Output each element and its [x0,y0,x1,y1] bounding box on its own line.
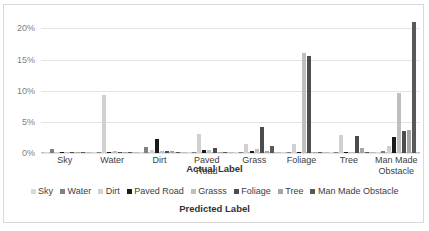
legend-item[interactable]: Paved Road [127,186,184,196]
bar[interactable] [92,152,96,153]
bar[interactable] [113,151,117,153]
bar[interactable] [244,144,248,153]
bar[interactable] [239,152,243,153]
bar[interactable] [334,152,338,153]
bar[interactable] [107,152,111,153]
bar-group [88,16,135,153]
legend-item[interactable]: Dirt [98,186,120,196]
legend-swatch-icon [191,189,196,194]
bar[interactable] [139,152,143,153]
bar-group [183,16,230,153]
bar[interactable] [55,152,59,153]
legend-label: Foliage [241,186,271,196]
bar[interactable] [234,152,238,153]
legend-item[interactable]: Foliage [234,186,271,196]
bar[interactable] [260,127,264,153]
bar[interactable] [329,152,333,153]
bar[interactable] [387,146,391,153]
bar-group [41,16,88,153]
bar[interactable] [45,152,49,153]
bar[interactable] [223,152,227,153]
bar[interactable] [350,152,354,153]
bar-group [373,16,420,153]
bar[interactable] [381,151,385,153]
legend-swatch-icon [98,189,103,194]
bar[interactable] [344,152,348,153]
bar[interactable] [250,151,254,153]
legend-item[interactable]: Grasss [191,186,227,196]
y-axis-tick-label: 0% [22,149,35,158]
bar[interactable] [360,148,364,153]
legend-item[interactable]: Man Made Obstacle [310,186,398,196]
bar[interactable] [339,135,343,153]
secondary-axis-title: Actual Label [4,163,425,174]
legend-swatch-icon [310,189,315,194]
bar[interactable] [255,149,259,153]
y-axis-tick-label: 5% [22,117,35,126]
bar[interactable] [123,152,127,153]
bar[interactable] [187,152,191,153]
bar[interactable] [97,152,101,153]
bar[interactable] [287,152,291,153]
bar-group [136,16,183,153]
chart-container: 0%5%10%15%20% SkyWaterDirtPaved RoadGras… [3,4,424,223]
bar[interactable] [70,152,74,153]
legend-label: Dirt [106,186,120,196]
legend-item[interactable]: Water [60,186,91,196]
bar[interactable] [218,152,222,153]
plot-area [41,16,420,153]
bar[interactable] [202,150,206,153]
y-axis: 0%5%10%15%20% [4,16,38,153]
bar[interactable] [355,136,359,153]
legend-swatch-icon [31,189,36,194]
bar[interactable] [318,152,322,153]
bar[interactable] [213,148,217,153]
bar[interactable] [365,152,369,153]
bar[interactable] [265,151,269,153]
legend-label: Sky [38,186,53,196]
bar-group [325,16,372,153]
legend-label: Tree [285,186,303,196]
bar[interactable] [407,130,411,153]
bar[interactable] [402,131,406,153]
y-axis-tick-label: 15% [17,55,35,64]
bar[interactable] [102,95,106,153]
bar[interactable] [76,152,80,153]
bar[interactable] [376,152,380,153]
bar[interactable] [192,152,196,153]
legend-label: Man Made Obstacle [318,186,399,196]
bar[interactable] [150,150,154,153]
bar[interactable] [170,151,174,153]
bar[interactable] [81,152,85,153]
bar[interactable] [302,53,306,153]
bar[interactable] [397,93,401,153]
bar[interactable] [118,152,122,153]
bar[interactable] [270,146,274,153]
legend-item[interactable]: Sky [31,186,54,196]
bar[interactable] [128,152,132,153]
legend-item[interactable]: Tree [278,186,304,196]
x-axis-title: Predicted Label [4,203,425,214]
bar[interactable] [313,152,317,153]
bar[interactable] [197,134,201,153]
bar[interactable] [292,144,296,153]
legend-swatch-icon [278,189,283,194]
bar[interactable] [176,152,180,153]
bar[interactable] [207,150,211,153]
bar[interactable] [297,152,301,153]
bar[interactable] [307,56,311,153]
bar[interactable] [160,151,164,153]
bar[interactable] [412,22,416,153]
bar[interactable] [392,137,396,154]
bar-group [231,16,278,153]
bar[interactable] [281,152,285,153]
bar[interactable] [50,149,54,153]
bar[interactable] [144,147,148,153]
bar[interactable] [60,152,64,153]
bar[interactable] [65,152,69,153]
bar[interactable] [165,151,169,153]
y-axis-tick-label: 10% [17,86,35,95]
bar[interactable] [155,139,159,153]
legend-swatch-icon [234,189,239,194]
gridline [41,153,420,154]
